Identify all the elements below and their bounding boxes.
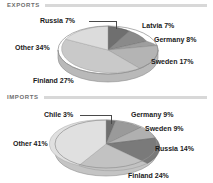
imports-label-sweden: Sweden 9% [145, 125, 184, 133]
imports-panel: IMPORTS [0, 92, 213, 183]
exports-label-latvia: Latvia 7% [142, 22, 174, 30]
exports-label-russia: Russia 7% [40, 17, 75, 25]
exports-panel: EXPORTS [0, 0, 213, 91]
imports-chile-leader-horizontal [80, 115, 112, 116]
imports-pie-chart [0, 92, 213, 183]
imports-label-russia: Russia 14% [155, 145, 194, 153]
imports-label-chile: Chile 3% [44, 111, 73, 119]
imports-chile-leader-vertical [111, 115, 112, 124]
exports-russia-leader-vertical [116, 21, 117, 29]
imports-label-germany: Germany 9% [131, 111, 173, 119]
exports-label-germany: Germany 8% [154, 36, 196, 44]
imports-label-finland: Finland 24% [128, 172, 169, 180]
exports-russia-leader-horizontal [89, 21, 117, 22]
imports-label-other: Other 41% [13, 140, 48, 148]
exports-label-sweden: Sweden 17% [151, 58, 193, 66]
imports-pie-svg [0, 92, 213, 183]
exports-label-finland: Finland 27% [33, 77, 74, 85]
exports-label-other: Other 34% [15, 44, 50, 52]
